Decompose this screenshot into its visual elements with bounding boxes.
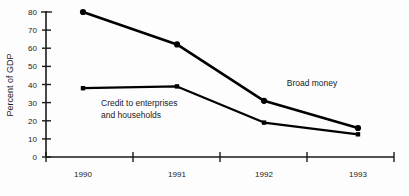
y-tick-0: 0	[33, 153, 51, 162]
y-tick-label: 80	[28, 8, 37, 17]
y-tick-70: 70	[28, 26, 51, 35]
annotation-broad-money: Broad money	[287, 78, 338, 88]
broad-money-point-1990	[80, 9, 86, 15]
broad-money-point-1991	[174, 41, 180, 47]
y-tick-60: 60	[28, 44, 51, 53]
y-tick-label: 20	[28, 117, 37, 126]
credit-point-1993	[356, 132, 360, 136]
annotation-credit: Credit to enterprises and households	[101, 98, 178, 120]
line-chart: Percent of GDP 80 70 60 50	[0, 0, 409, 196]
y-tick-label: 70	[28, 26, 37, 35]
y-tick-label: 50	[28, 62, 37, 71]
credit-point-1992	[262, 120, 266, 124]
y-tick-30: 30	[28, 99, 51, 108]
y-tick-label: 30	[28, 99, 37, 108]
y-tick-label: 10	[28, 135, 37, 144]
y-axis-title: Percent of GDP	[5, 53, 15, 116]
broad-money-point-1992	[261, 98, 267, 104]
y-tick-label: 0	[33, 153, 38, 162]
x-tick-label-1990: 1990	[74, 170, 92, 179]
y-tick-50: 50	[28, 62, 51, 71]
x-tick-label-1992: 1992	[255, 170, 273, 179]
y-tick-40: 40	[28, 81, 51, 90]
credit-point-1991	[175, 84, 179, 88]
annotation-credit-line1: Credit to enterprises	[101, 98, 178, 108]
y-tick-label: 40	[28, 81, 37, 90]
y-tick-label: 60	[28, 44, 37, 53]
annotation-credit-line2: and households	[101, 110, 161, 120]
x-tick-label-1993: 1993	[349, 170, 367, 179]
y-tick-10: 10	[28, 135, 51, 144]
credit-point-1990	[81, 86, 85, 90]
chart-container: Percent of GDP 80 70 60 50	[0, 0, 409, 196]
broad-money-point-1993	[355, 125, 361, 131]
y-axis-ticks: 80 70 60 50 40 30	[28, 8, 52, 162]
y-tick-20: 20	[28, 117, 51, 126]
y-tick-80: 80	[28, 8, 52, 17]
x-tick-label-1991: 1991	[168, 170, 186, 179]
x-axis-labels: 1990 1991 1992 1993	[74, 170, 367, 179]
